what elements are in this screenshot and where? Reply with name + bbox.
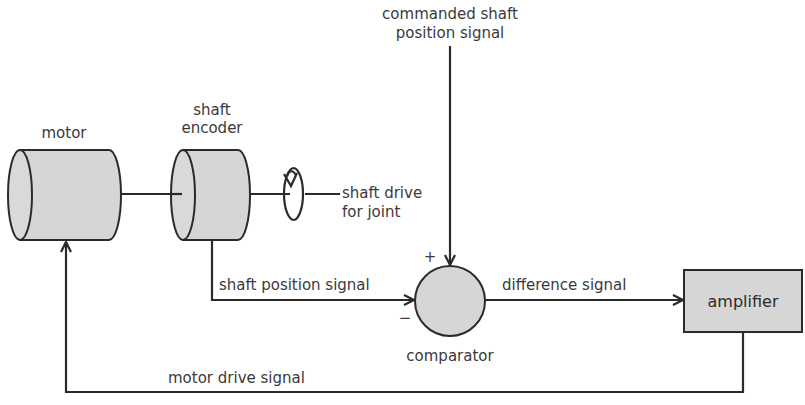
plus-sign: + xyxy=(424,248,437,266)
comparator-circle xyxy=(415,266,485,336)
motor-label: motor xyxy=(41,124,87,142)
comparator-label: comparator xyxy=(406,347,494,365)
shaft-drive-label-line2: for joint xyxy=(342,203,400,221)
difference-signal-label: difference signal xyxy=(502,276,626,294)
minus-sign: − xyxy=(399,309,412,327)
shaft-encoder-label-line1: shaft xyxy=(193,101,231,119)
shaft-position-signal-label: shaft position signal xyxy=(219,276,370,294)
amplifier-label: amplifier xyxy=(708,292,779,311)
shaft-drive-label-line1: shaft drive xyxy=(342,184,422,202)
motor-drive-signal-label: motor drive signal xyxy=(168,369,305,387)
shaft-encoder-cylinder xyxy=(170,150,250,240)
commanded-label-line2: position signal xyxy=(396,24,505,42)
servo-control-diagram: motor shaft encoder shaft drive for join… xyxy=(0,0,805,405)
motor-cylinder xyxy=(8,150,121,240)
shaft-encoder-label-line2: encoder xyxy=(181,119,243,137)
commanded-label-line1: commanded shaft xyxy=(382,5,518,23)
